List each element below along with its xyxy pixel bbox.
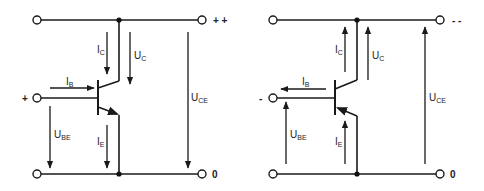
ube-label: UBE <box>290 129 307 141</box>
ib-label: IB <box>302 76 310 88</box>
supply-label: + + <box>213 15 228 26</box>
base-polarity-label: + <box>22 93 28 104</box>
ground-label: 0 <box>212 169 218 180</box>
terminal-ground <box>436 170 444 178</box>
junction-dot-top <box>116 17 121 22</box>
ie-label: IE <box>97 136 105 148</box>
uc-label: UC <box>134 50 146 62</box>
terminal-supply <box>436 16 444 24</box>
terminal-bottom-left <box>33 170 41 178</box>
junction-dot-top <box>354 17 359 22</box>
ube-label: UBE <box>54 129 71 141</box>
terminal-supply <box>198 16 206 24</box>
ic-label: IC <box>97 44 105 56</box>
emitter-arrow <box>98 107 117 114</box>
transistor-circuits: + + + 0 IC UC IB UBE IE UCE <box>0 0 484 191</box>
collector-lead <box>335 80 357 89</box>
junction-dot-bottom <box>354 171 359 176</box>
terminal-base <box>33 94 41 102</box>
base-polarity-label: - <box>259 93 262 104</box>
ground-label: 0 <box>450 169 456 180</box>
junction-dot-bottom <box>116 171 121 176</box>
emitter-arrow <box>338 108 357 116</box>
ib-label: IB <box>66 76 74 88</box>
ic-label: IC <box>335 44 343 56</box>
uce-label: UCE <box>191 92 208 104</box>
npn-circuit: + + + 0 IC UC IB UBE IE UCE <box>22 15 228 180</box>
pnp-circuit: - - - 0 IC UC IB UBE IE UCE <box>259 15 461 180</box>
terminal-ground <box>198 170 206 178</box>
uc-label: UC <box>372 50 384 62</box>
terminal-top-left <box>269 16 277 24</box>
terminal-bottom-left <box>269 170 277 178</box>
terminal-top-left <box>33 16 41 24</box>
uce-label: UCE <box>429 92 446 104</box>
ie-label: IE <box>335 136 343 148</box>
collector-lead <box>98 81 119 88</box>
supply-label: - - <box>452 15 461 26</box>
terminal-base <box>269 94 277 102</box>
